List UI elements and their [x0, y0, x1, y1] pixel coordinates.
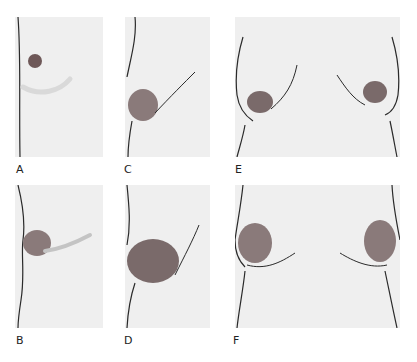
panel-label-b: B — [16, 335, 24, 346]
panel-e — [235, 17, 400, 157]
panel-label-f: F — [233, 335, 239, 346]
frontal-outline-e — [235, 17, 400, 157]
panel-f — [235, 185, 400, 328]
panel-label-a: A — [16, 164, 24, 175]
panel-a — [15, 17, 103, 157]
panel-label-e: E — [235, 164, 242, 175]
frontal-outline-f — [235, 185, 400, 328]
lateral-outline-c — [125, 17, 210, 157]
panel-label-c: C — [124, 164, 132, 175]
panel-c — [125, 17, 210, 157]
lateral-outline-a — [15, 17, 103, 157]
lateral-outline-d — [125, 185, 210, 328]
panel-label-d: D — [124, 335, 132, 346]
panel-d — [125, 185, 210, 328]
panel-b — [15, 185, 103, 328]
lateral-outline-b — [15, 185, 103, 328]
